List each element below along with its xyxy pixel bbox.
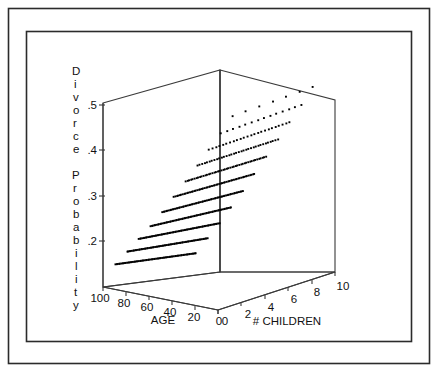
z-title-char-0: D	[72, 65, 80, 77]
data-point	[201, 163, 203, 165]
z-title-char-11: b	[73, 208, 79, 220]
data-point	[265, 142, 267, 144]
data-point	[271, 127, 273, 129]
data-point	[218, 157, 220, 159]
data-point	[236, 139, 238, 141]
y-tick-label-5: 10	[337, 280, 350, 292]
data-point	[186, 192, 188, 194]
data-point	[278, 125, 280, 127]
z-title-char-3: o	[73, 104, 79, 116]
z-tick-label-0: .5	[87, 99, 97, 111]
data-point	[212, 147, 214, 149]
data-point	[253, 133, 255, 135]
data-point	[223, 169, 225, 171]
data-point	[258, 145, 260, 147]
data-point	[203, 175, 205, 177]
data-point	[233, 179, 235, 181]
data-point	[206, 161, 208, 163]
z-tick-label-2: .3	[87, 190, 97, 202]
floor-plane	[103, 272, 335, 310]
data-point	[258, 158, 260, 160]
data-point	[251, 121, 253, 123]
x-axis-title: AGE	[151, 314, 176, 326]
data-point	[245, 110, 247, 112]
z-title-char-6: e	[73, 143, 79, 155]
y-tick-label-2: 4	[268, 301, 275, 313]
data-point	[260, 131, 262, 133]
data-point	[208, 186, 210, 188]
data-point	[138, 238, 140, 240]
data-point	[247, 161, 249, 163]
data-point	[217, 171, 219, 173]
x-tick-label-2: 60	[141, 301, 154, 313]
data-point	[249, 161, 251, 163]
data-point	[204, 162, 206, 164]
z-title-char-17: t	[74, 286, 78, 298]
data-point	[211, 160, 213, 162]
x-axis: 100 80 60 40 20 0 AGE	[90, 287, 222, 327]
data-point	[248, 175, 250, 177]
data-point	[247, 136, 249, 138]
data-point	[218, 145, 220, 147]
z-title-char-5: c	[73, 130, 79, 142]
data-point	[275, 113, 277, 115]
data-point	[300, 104, 302, 106]
data-point	[230, 180, 232, 182]
data-point	[196, 177, 198, 179]
data-point	[223, 156, 225, 158]
data-point	[255, 146, 257, 148]
data-point	[245, 175, 247, 177]
data-point	[205, 174, 207, 176]
data-point	[229, 167, 231, 169]
data-point	[174, 195, 176, 197]
data-point	[235, 165, 237, 167]
data-point	[288, 108, 290, 110]
axes-box-wireframe	[103, 70, 335, 310]
data-point	[189, 191, 191, 193]
back-left-wall	[103, 70, 220, 287]
data-point	[282, 111, 284, 113]
data-point	[220, 132, 222, 134]
y-axis: 0 2 4 6 8 10 # CHILDREN	[218, 272, 349, 327]
figure-root: .5 .4 .3 .2 D i v o r c e P r o b a b i …	[0, 0, 438, 372]
x-tick-label-1: 80	[118, 297, 131, 309]
data-point	[257, 119, 259, 121]
z-title-char-12: a	[73, 221, 80, 233]
data-point	[213, 185, 215, 187]
data-point	[194, 178, 196, 180]
data-point	[232, 128, 234, 130]
data-point	[233, 153, 235, 155]
data-point	[257, 132, 259, 134]
data-point	[127, 251, 129, 253]
data-point	[299, 91, 301, 93]
x-tick-label-0: 100	[90, 292, 109, 304]
data-point	[190, 179, 192, 181]
data-point	[253, 146, 255, 148]
data-point	[216, 184, 218, 186]
data-point	[187, 180, 189, 182]
data-point	[201, 188, 203, 190]
data-point	[227, 180, 229, 182]
data-point	[238, 164, 240, 166]
data-point	[247, 148, 249, 150]
data-point	[220, 183, 222, 185]
data-point	[198, 189, 200, 191]
data-point	[240, 138, 242, 140]
data-point	[218, 183, 220, 185]
data-point	[191, 191, 193, 193]
data-point	[197, 165, 199, 167]
data-point	[226, 155, 228, 157]
data-point	[238, 151, 240, 153]
data-point	[265, 156, 267, 158]
data-point	[235, 152, 237, 154]
data-point	[282, 124, 284, 126]
data-point	[244, 162, 246, 164]
data-point-cloud	[115, 86, 314, 265]
z-title-char-4: r	[73, 117, 77, 129]
data-point	[253, 160, 255, 162]
data-point	[263, 117, 265, 119]
data-point	[241, 150, 243, 152]
data-point	[245, 149, 247, 151]
back-right-wall	[220, 70, 335, 272]
data-point	[176, 195, 178, 197]
